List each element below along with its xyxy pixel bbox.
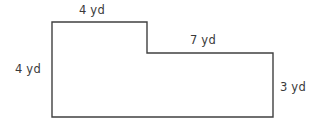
dimension-label-right: 3 yd <box>280 80 306 94</box>
composite-figure-drawing <box>0 0 318 131</box>
dimension-label-left: 4 yd <box>15 62 41 76</box>
figure-canvas: 4 yd 7 yd 4 yd 3 yd <box>0 0 318 131</box>
dimension-label-upper-right: 7 yd <box>190 33 216 47</box>
dimension-label-top: 4 yd <box>79 3 105 17</box>
